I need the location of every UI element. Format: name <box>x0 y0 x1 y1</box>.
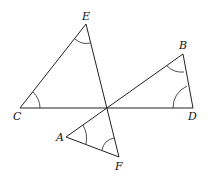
angle-mark-F <box>102 138 114 150</box>
geometry-diagram: E C D B A F <box>0 0 211 178</box>
label-F: F <box>114 160 123 173</box>
angle-mark-D <box>173 86 187 108</box>
segment-EF <box>86 24 119 157</box>
angle-mark-A <box>83 125 87 144</box>
angle-mark-C <box>33 92 40 108</box>
segment-AB <box>66 54 183 137</box>
angle-mark-E <box>75 39 90 44</box>
label-A: A <box>55 131 64 144</box>
segment-BD <box>183 54 193 108</box>
segment-CE <box>20 24 86 108</box>
label-D: D <box>187 110 197 123</box>
label-B: B <box>178 39 187 52</box>
label-E: E <box>81 10 90 23</box>
angle-mark-B <box>167 66 184 72</box>
segment-AF <box>66 137 119 157</box>
label-C: C <box>13 110 22 123</box>
